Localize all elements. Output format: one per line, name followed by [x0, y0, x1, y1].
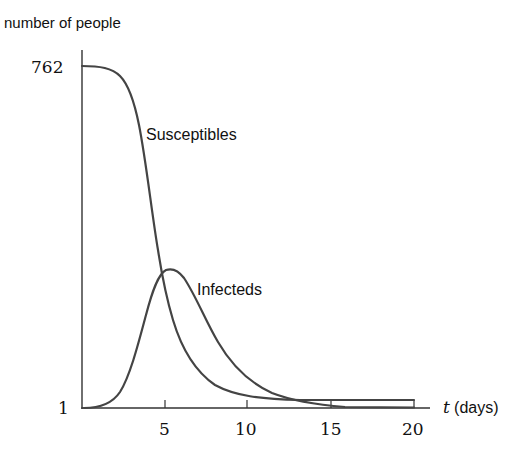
- susceptibles-curve: [82, 66, 414, 400]
- infecteds-label: Infecteds: [197, 281, 262, 299]
- y-tick-label-762: 762: [31, 57, 63, 77]
- y-tick-label-1: 1: [58, 398, 69, 418]
- y-axis-label: number of people: [4, 14, 121, 31]
- x-tick-label-20: 20: [402, 419, 424, 439]
- x-tick-label-10: 10: [235, 419, 257, 439]
- x-axis-unit: (days): [454, 399, 498, 416]
- x-tick-label-15: 15: [320, 419, 342, 439]
- x-axis-label: t (days): [443, 397, 499, 418]
- x-tick-label-5: 5: [159, 419, 170, 439]
- x-axis-variable: t: [443, 397, 450, 417]
- susceptibles-label: Susceptibles: [146, 126, 237, 144]
